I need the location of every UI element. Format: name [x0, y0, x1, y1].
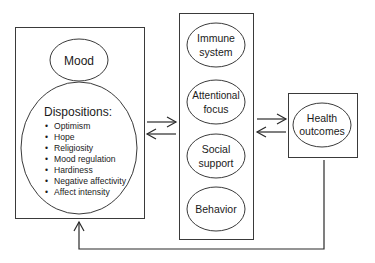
- left-box: Mood Dispositions: • Optimism • Hope • R…: [16, 28, 145, 219]
- disposition-item-hope: Hope: [54, 132, 75, 142]
- immune-system-label-2: system: [199, 46, 233, 58]
- health-outcomes-label-2: outcomes: [299, 125, 345, 137]
- attentional-focus-label-1: Attentional: [192, 90, 239, 101]
- mood-node: Mood: [50, 39, 108, 81]
- disposition-item-mood-regulation: Mood regulation: [54, 154, 116, 164]
- arrow-right-icon: [257, 114, 286, 124]
- behavior-label: Behavior: [195, 203, 237, 215]
- bullet-icon: •: [45, 187, 48, 197]
- middle-box: Immune system Attentional focus Social s…: [180, 14, 254, 240]
- social-support-node: Social support: [187, 134, 245, 178]
- disposition-item-optimism: Optimism: [54, 121, 90, 131]
- immune-system-label-1: Immune: [197, 32, 235, 44]
- bullet-icon: •: [45, 165, 48, 175]
- arrow-right-icon: [147, 117, 176, 127]
- attentional-focus-label-2: focus: [203, 103, 228, 115]
- mood-label: Mood: [64, 54, 94, 68]
- arrow-left-icon: [257, 127, 286, 137]
- arrows-left-middle: [147, 117, 176, 139]
- bullet-icon: •: [45, 176, 48, 186]
- behavior-node: Behavior: [187, 187, 245, 231]
- social-support-label-1: Social: [202, 143, 231, 155]
- health-model-diagram: Mood Dispositions: • Optimism • Hope • R…: [0, 0, 375, 263]
- health-outcomes-label-1: Health: [307, 112, 338, 124]
- dispositions-list: • Optimism • Hope • Religiosity • Mood r…: [45, 121, 127, 197]
- immune-system-ellipse: [187, 23, 245, 67]
- disposition-item-negative-affectivity: Negative affectivity: [54, 176, 127, 186]
- disposition-item-affect-intensity: Affect intensity: [54, 187, 110, 197]
- immune-system-node: Immune system: [187, 23, 245, 67]
- attentional-focus-node: Attentional focus: [187, 80, 245, 124]
- arrow-left-icon: [147, 129, 176, 139]
- bullet-icon: •: [45, 143, 48, 153]
- dispositions-title: Dispositions:: [44, 105, 112, 119]
- social-support-label-2: support: [198, 157, 233, 169]
- bullet-icon: •: [45, 132, 48, 142]
- arrows-middle-right: [257, 114, 286, 137]
- dispositions-node: Dispositions: • Optimism • Hope • Religi…: [21, 82, 137, 214]
- attentional-focus-ellipse: [187, 80, 245, 124]
- bullet-icon: •: [45, 121, 48, 131]
- disposition-item-religiosity: Religiosity: [54, 143, 94, 153]
- disposition-item-hardiness: Hardiness: [54, 165, 93, 175]
- social-support-ellipse: [187, 134, 245, 178]
- right-box: Health outcomes: [289, 94, 358, 158]
- bullet-icon: •: [45, 154, 48, 164]
- health-outcomes-node: Health outcomes: [293, 103, 351, 147]
